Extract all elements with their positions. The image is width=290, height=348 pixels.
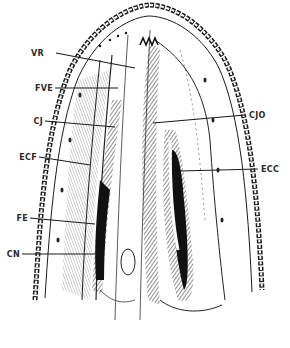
label-ecc: ECC bbox=[180, 165, 279, 174]
label-text-cjo: CJO bbox=[249, 111, 266, 120]
label-text-fe: FE bbox=[16, 214, 28, 223]
label-text-cn: CN bbox=[7, 250, 20, 259]
label-text-cj: CJ bbox=[34, 117, 43, 126]
anatomical-drawing: VR FVE CJ ECF FE CN CJO ECC bbox=[0, 0, 290, 348]
right-cavity bbox=[142, 40, 225, 311]
label-text-ecf: ECF bbox=[19, 153, 37, 162]
leader-line-cjo bbox=[153, 115, 245, 123]
label-text-fve: FVE bbox=[35, 84, 53, 93]
leader-line-vr bbox=[56, 53, 135, 68]
label-cjo: CJO bbox=[153, 111, 266, 123]
label-text-ecc: ECC bbox=[261, 165, 279, 174]
label-text-vr: VR bbox=[31, 49, 44, 58]
